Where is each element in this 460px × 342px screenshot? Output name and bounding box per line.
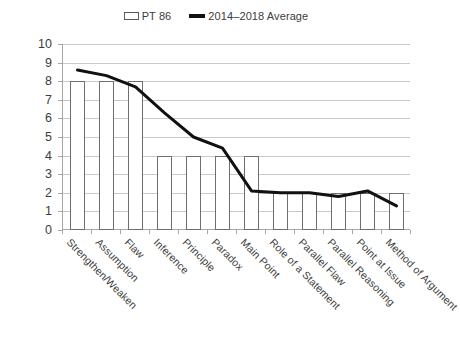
y-axis-tick-label: 7 — [45, 93, 52, 107]
legend-label-bar-series: PT 86 — [142, 10, 172, 22]
y-axis: 012345678910 — [14, 44, 58, 230]
line-swatch-icon — [189, 14, 205, 18]
y-axis-tick-label: 6 — [45, 111, 52, 125]
y-axis-tick-label: 5 — [45, 130, 52, 144]
y-axis-tick-label: 0 — [45, 223, 52, 237]
plot-area — [62, 44, 410, 230]
legend-label-line-series: 2014–2018 Average — [208, 10, 308, 22]
y-axis-tick-label: 2 — [45, 186, 52, 200]
y-axis-tick-label: 8 — [45, 74, 52, 88]
bar-swatch-icon — [124, 12, 139, 20]
average-line-path — [78, 70, 397, 206]
y-axis-tick-label: 3 — [45, 167, 52, 181]
legend-item-line-series[interactable]: 2014–2018 Average — [189, 10, 308, 22]
line-series-layer — [63, 44, 411, 230]
x-axis-labels: Strengthen/WeakenAssumptionFlawInference… — [62, 234, 410, 342]
y-axis-tick-label: 9 — [45, 56, 52, 70]
y-axis-tick-label: 4 — [45, 149, 52, 163]
y-axis-tick-label: 10 — [38, 37, 52, 51]
y-axis-tick-label: 1 — [45, 204, 52, 218]
x-axis-category-label: Flaw — [122, 236, 146, 260]
chart-legend: PT 86 2014–2018 Average — [0, 10, 432, 22]
x-axis-tick-mark — [410, 230, 411, 234]
legend-item-bar-series[interactable]: PT 86 — [124, 10, 172, 22]
plot-frame — [62, 44, 410, 230]
